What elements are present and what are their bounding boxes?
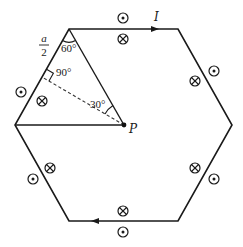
half-side-label: a 2 (39, 32, 49, 58)
right-angle-marker (47, 69, 54, 81)
current-arrow-top-icon (151, 26, 159, 32)
half-side-denominator: 2 (41, 46, 47, 58)
field-out-icon (118, 227, 128, 237)
field-in-icon (37, 96, 47, 106)
point-p-dot (122, 123, 127, 128)
point-p-label: P (128, 122, 138, 136)
current-label: I (153, 10, 159, 24)
field-in-icon (190, 76, 200, 86)
field-out-icon (118, 13, 128, 23)
field-out-icon (16, 87, 26, 97)
half-side-numerator: a (41, 32, 47, 44)
field-out-icon (209, 174, 219, 184)
hexagon-current-diagram: I P a 2 60° 90° 30° (0, 0, 243, 247)
angle-30-arc (105, 106, 113, 115)
perpendicular-p-to-left-upper-edge (42, 77, 124, 125)
angle-60-label: 60° (61, 42, 76, 54)
field-in-icon (118, 34, 128, 44)
angle-30-label: 30° (90, 98, 105, 110)
field-in-icon (190, 163, 200, 173)
line-p-to-top-left (69, 29, 124, 125)
angle-90-label: 90° (56, 66, 71, 78)
field-in-icon (45, 163, 55, 173)
field-out-icon (28, 174, 38, 184)
current-arrow-bottom-icon (91, 218, 99, 224)
field-out-icon (209, 66, 219, 76)
field-in-icon (118, 206, 128, 216)
